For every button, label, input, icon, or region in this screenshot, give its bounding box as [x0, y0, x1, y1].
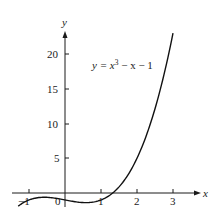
- y-axis-arrow-icon: [63, 31, 68, 38]
- x-tick-label-0: 0: [55, 195, 61, 207]
- y-axis: y 20 15 10 5: [47, 16, 69, 207]
- y-tick-label-5: 5: [54, 152, 60, 164]
- y-tick-label-15: 15: [47, 83, 59, 95]
- equation-rest: − x − 1: [118, 59, 152, 71]
- x-axis-label: x: [202, 187, 208, 199]
- equation-main: y = x: [91, 59, 115, 71]
- cubic-function-graph: x −1 0 1 2 3 y 20 15 10 5 y = x3 − x − 1: [0, 0, 219, 218]
- y-axis-label: y: [61, 16, 67, 28]
- equation-label: y = x3 − x − 1: [91, 58, 153, 71]
- y-tick-label-10: 10: [47, 118, 59, 130]
- x-tick-label-3: 3: [170, 195, 176, 207]
- x-axis-arrow-icon: [194, 191, 201, 196]
- x-tick-label-2: 2: [134, 195, 140, 207]
- y-tick-label-20: 20: [47, 48, 59, 60]
